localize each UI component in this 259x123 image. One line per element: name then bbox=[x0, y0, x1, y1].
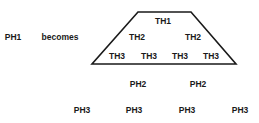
th1-label: TH1 bbox=[155, 17, 171, 26]
th3-label-4: TH3 bbox=[203, 52, 219, 61]
ph1-label: PH1 bbox=[5, 33, 22, 42]
becomes-label: becomes bbox=[42, 33, 79, 42]
diagram: PH1 becomes TH1 TH2 TH2 TH3 TH3 TH3 TH3 … bbox=[0, 0, 259, 123]
ph2-label-right: PH2 bbox=[190, 80, 207, 89]
th2-label-right: TH2 bbox=[185, 33, 201, 42]
th3-label-3: TH3 bbox=[172, 52, 188, 61]
ph3-label-1: PH3 bbox=[74, 106, 91, 115]
ph3-label-3: PH3 bbox=[179, 106, 196, 115]
th2-label-left: TH2 bbox=[129, 33, 145, 42]
th3-label-2: TH3 bbox=[141, 52, 157, 61]
ph2-label-left: PH2 bbox=[130, 80, 147, 89]
ph3-label-2: PH3 bbox=[126, 106, 143, 115]
th3-label-1: TH3 bbox=[109, 52, 125, 61]
ph3-label-4: PH3 bbox=[232, 106, 249, 115]
